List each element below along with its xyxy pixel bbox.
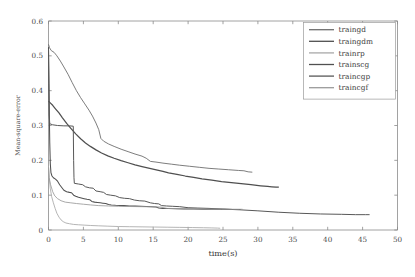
legend-label-traincgf: traincgf [339, 83, 370, 92]
legend-label-traingd: traingd [339, 25, 367, 34]
legend-label-traincgp: traincgp [339, 72, 371, 81]
x-tick-label: 40 [323, 235, 333, 244]
series-line-traingd [49, 44, 253, 172]
line-chart: 05101520253035404550 00.10.20.30.40.50.6… [0, 0, 415, 277]
x-axis-title: time(s) [208, 248, 237, 258]
chart-legend: traingdtraingdmtrainrptrainscgtraincgptr… [304, 23, 396, 100]
y-axis-title: Mean-square-error [14, 94, 22, 156]
series-line-traingdm [49, 101, 279, 187]
y-tick-label: 0 [38, 226, 43, 235]
x-tick-label: 15 [149, 235, 159, 244]
x-tick-label: 0 [46, 235, 51, 244]
x-tick-label: 30 [253, 235, 263, 244]
x-tick-label: 45 [358, 235, 368, 244]
y-tick-label: 0.6 [32, 17, 44, 26]
chart-figure: 05101520253035404550 00.10.20.30.40.50.6… [0, 0, 415, 277]
legend-label-traingdm: traingdm [339, 37, 374, 46]
series-line-trainscg [49, 47, 242, 209]
x-tick-label: 20 [184, 235, 194, 244]
y-tick-label: 0.1 [32, 191, 43, 200]
y-tick-label: 0.2 [32, 156, 43, 165]
x-tick-label: 35 [288, 235, 298, 244]
x-tick-label: 25 [218, 235, 228, 244]
series-line-traincgf [49, 167, 243, 209]
y-tick-label: 0.5 [32, 51, 44, 60]
x-tick-label: 10 [114, 235, 124, 244]
x-tick-label: 5 [81, 235, 86, 244]
y-tick-label: 0.3 [32, 121, 44, 130]
y-tick-label: 0.4 [32, 86, 44, 95]
legend-label-trainrp: trainrp [339, 49, 366, 58]
legend-label-trainscg: trainscg [339, 60, 370, 69]
x-tick-label: 50 [393, 235, 403, 244]
